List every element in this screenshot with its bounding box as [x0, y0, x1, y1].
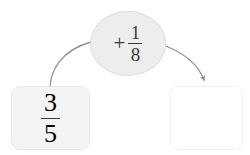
- operator-oval: + 1 8: [90, 11, 166, 76]
- input-numerator: 3: [44, 90, 57, 116]
- answer-box[interactable]: [170, 86, 243, 150]
- connector-input-to-operator: [50, 42, 91, 89]
- operator-fraction: 1 8: [128, 23, 142, 64]
- answer-value: [206, 118, 207, 119]
- operator-numerator: 1: [129, 23, 143, 42]
- plus-sign-icon: +: [114, 33, 126, 54]
- function-machine-diagram: + 1 8 3 5: [0, 0, 250, 155]
- input-denominator: 5: [44, 121, 57, 147]
- input-fraction: 3 5: [41, 90, 60, 147]
- operator-denominator: 8: [129, 45, 143, 64]
- connector-operator-to-output: [163, 45, 204, 80]
- input-value-box: 3 5: [11, 86, 90, 150]
- operator-expression: + 1 8: [114, 23, 143, 64]
